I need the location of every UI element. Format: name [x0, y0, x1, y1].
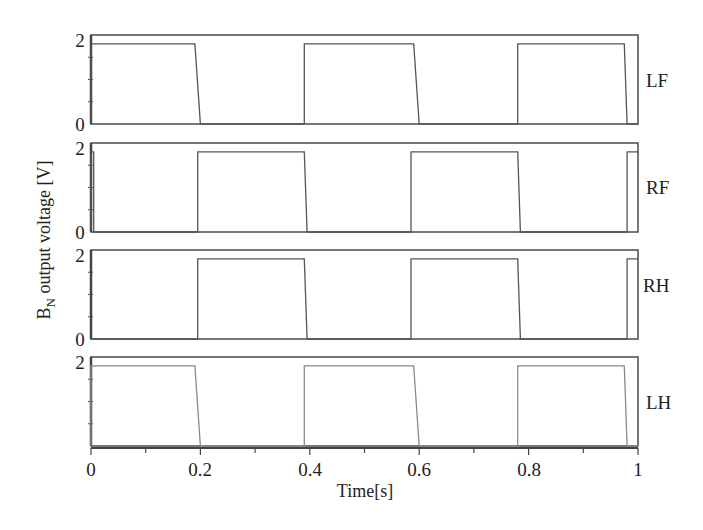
x-tick-label-0: 0 [86, 459, 96, 480]
rf-y-tick-2: 2 [75, 138, 85, 159]
x-axis [91, 448, 638, 455]
lh-y-tick-2: 2 [75, 352, 85, 373]
panel-label-rh: RH [643, 275, 670, 296]
lf-y-tick-0: 0 [75, 114, 85, 135]
x-tick-label-0.8: 0.8 [517, 459, 541, 480]
signal-trace-rf [91, 152, 638, 232]
signal-trace-lf [91, 44, 638, 124]
panel-frame [91, 143, 638, 232]
rf-y-tick-0: 0 [75, 222, 85, 243]
rh-y-tick-0: 0 [75, 329, 85, 350]
panel-frame [91, 35, 638, 124]
x-tick-label-0.6: 0.6 [407, 459, 431, 480]
rh-y-tick-2: 2 [75, 245, 85, 266]
panel-rh [88, 250, 638, 339]
signal-trace-lh [91, 366, 638, 446]
chart-canvas: 0 0.2 0.4 0.6 0.8 1 Time[s] BN output vo… [0, 0, 703, 530]
x-tick-label-0.2: 0.2 [188, 459, 212, 480]
x-axis-title: Time[s] [337, 481, 393, 501]
panel-frame [91, 250, 638, 339]
lf-y-tick-2: 2 [75, 30, 85, 51]
x-tick-label-0.4: 0.4 [298, 459, 322, 480]
panel-lf [88, 35, 638, 124]
panel-label-lf: LF [646, 70, 668, 91]
panel-label-rf: RF [646, 177, 669, 198]
y-axis-title: BN output voltage [V] [34, 161, 58, 320]
signal-trace-rh [91, 259, 638, 339]
panel-lh [88, 357, 638, 446]
panel-label-lh: LH [646, 392, 672, 413]
panels-group [88, 35, 638, 446]
x-tick-label-1: 1 [633, 459, 643, 480]
panel-rf [88, 143, 638, 232]
panel-frame [91, 357, 638, 446]
